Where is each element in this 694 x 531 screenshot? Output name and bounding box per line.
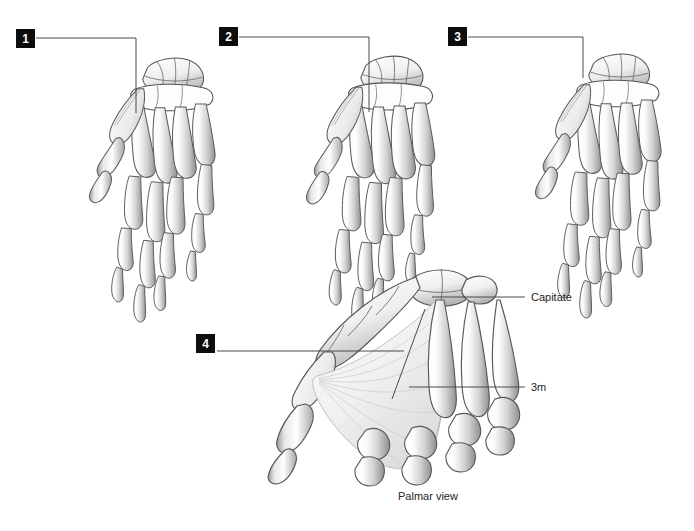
annotation-capitate: Capitate [531, 292, 572, 303]
leader-line-3 [468, 37, 583, 78]
figure-illustration [0, 0, 694, 531]
figure-caption: Palmar view [398, 491, 458, 502]
hand-illustration-4 [268, 269, 519, 486]
callout-box-4[interactable]: 4 [196, 334, 215, 353]
callout-label-1: 1 [22, 33, 29, 45]
callout-label-4: 4 [202, 338, 209, 350]
anatomy-figure: 1 2 3 4 Capitate 3m Palmar view [0, 0, 694, 531]
callout-label-2: 2 [225, 31, 232, 43]
annotation-3m: 3m [531, 382, 546, 393]
leader-line-1 [36, 38, 136, 113]
callout-box-3[interactable]: 3 [448, 27, 467, 46]
hand-illustration-3 [535, 54, 661, 318]
callout-box-2[interactable]: 2 [219, 27, 238, 46]
callout-box-1[interactable]: 1 [16, 29, 35, 48]
hand-illustration-1 [89, 58, 215, 322]
callout-label-3: 3 [454, 31, 461, 43]
